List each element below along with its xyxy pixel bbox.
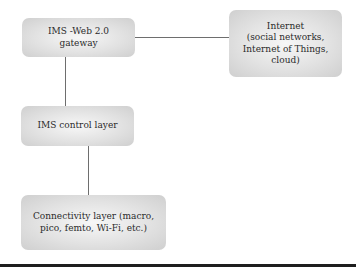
node-connectivity-layer: Connectivity layer (macro, pico, femto, … [21, 195, 166, 250]
figure-bottom-rule [0, 264, 356, 267]
node-label: Internet (social networks, Internet of T… [233, 21, 338, 67]
edge-gateway-internet [135, 37, 230, 38]
edge-control-connectivity [88, 146, 89, 196]
node-ims-control-layer: IMS control layer [21, 106, 134, 146]
node-ims-web-gateway: IMS -Web 2.0 gateway [22, 18, 135, 57]
node-label: IMS control layer [37, 120, 117, 132]
node-label: Connectivity layer (macro, pico, femto, … [33, 211, 154, 234]
node-internet: Internet (social networks, Internet of T… [229, 10, 342, 77]
node-label: IMS -Web 2.0 gateway [48, 26, 109, 49]
edge-gateway-control [65, 57, 66, 107]
